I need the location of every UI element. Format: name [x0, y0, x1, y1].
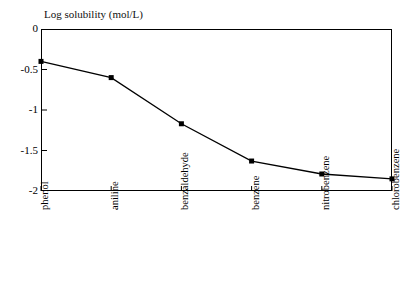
x-axis-tick-label: chlorobenzene	[388, 196, 402, 210]
x-axis-tick-label: aniline	[107, 196, 121, 210]
x-axis-tick-label-text: chlorobenzene	[389, 196, 403, 210]
x-axis-tick-label: benzaldehyde	[177, 196, 191, 210]
x-axis-tick-label-text: phenol	[38, 196, 52, 210]
x-axis-tick-label: nitrobenzene	[318, 196, 332, 210]
x-axis-labels: phenolanilinebenzaldehydebenzenenitroben…	[0, 0, 415, 282]
x-axis-tick-label-text: aniline	[108, 196, 122, 210]
chart-figure: Log solubility (mol/L) 0-0.5-1-1.5-2 phe…	[0, 0, 415, 282]
x-axis-tick-label: phenol	[37, 196, 51, 210]
x-axis-tick-label-text: benzaldehyde	[178, 196, 192, 210]
x-axis-tick-label: benzene	[248, 196, 262, 210]
x-axis-tick-label-text: nitrobenzene	[319, 196, 333, 210]
x-axis-tick-label-text: benzene	[249, 196, 263, 210]
